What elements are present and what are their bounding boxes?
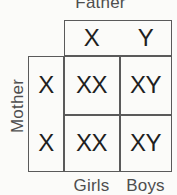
genotype-cell-row2-col1: XX [64, 114, 119, 172]
father-allele-y: Y [119, 20, 172, 56]
genotype-cell-row2-col2: XY [119, 114, 172, 172]
father-axis-label: Father [0, 0, 177, 13]
father-allele-x: X [64, 20, 119, 56]
mother-allele-row-1: X [28, 56, 64, 114]
punnett-square-diagram: Father Mother X Y X X XX XY XX XY Girls … [0, 0, 177, 195]
girls-outcome-label: Girls [64, 176, 119, 195]
boys-outcome-label: Boys [119, 176, 172, 195]
genotype-cell-row1-col1: XX [64, 56, 119, 114]
mother-axis-label: Mother [8, 56, 28, 156]
genotype-cell-row1-col2: XY [119, 56, 172, 114]
mother-allele-row-2: X [28, 114, 64, 172]
